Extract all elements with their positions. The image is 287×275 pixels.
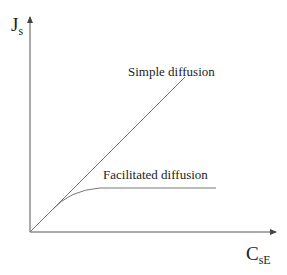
facilitated-diffusion-label: Facilitated diffusion bbox=[103, 167, 208, 183]
y-axis-label: Js bbox=[11, 14, 23, 39]
facilitated-diffusion-curve bbox=[30, 188, 216, 232]
diffusion-plot bbox=[0, 0, 287, 275]
simple-diffusion-label: Simple diffusion bbox=[128, 64, 215, 80]
x-axis-label: CsE bbox=[246, 243, 271, 268]
